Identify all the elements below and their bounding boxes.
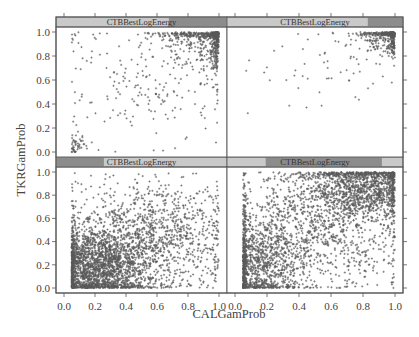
y-tick-label: 0.4	[36, 235, 50, 247]
x-axis-title: CALGamProb	[193, 307, 266, 321]
y-tick-label: 0.8	[36, 189, 50, 201]
y-tick-label: 1.0	[36, 166, 50, 178]
x-tick-label: 0.2	[88, 300, 102, 312]
strip-label: CTBBestLogEnergy	[107, 157, 177, 167]
y-tick-label: 0.0	[36, 146, 50, 158]
x-tick-label: 0.0	[57, 300, 71, 312]
strip-shingle-range	[169, 17, 227, 26]
y-tick-label: 0.2	[36, 259, 50, 271]
y-tick-label: 0.4	[36, 98, 50, 110]
y-tick-label: 0.6	[36, 212, 50, 224]
y-tick-label: 0.0	[36, 282, 50, 294]
strip-shingle-range	[56, 157, 104, 166]
panel-bottom-right: CTBBestLogEnergy	[227, 157, 403, 293]
trellis-scatter-chart: CTBBestLogEnergyCTBBestLogEnergyCTBBestL…	[0, 0, 419, 337]
y-tick-label: 0.2	[36, 122, 50, 134]
strip-shingle-range	[368, 17, 403, 26]
x-tick-label: 0.8	[356, 300, 370, 312]
panel-top-left: CTBBestLogEnergy	[56, 17, 227, 157]
y-tick-label: 0.8	[36, 50, 50, 62]
x-tick-label: 1.0	[388, 300, 402, 312]
y-axis-title: TKRGamProb	[14, 124, 28, 197]
x-tick-label: 0.6	[324, 300, 338, 312]
x-tick-label: 0.4	[292, 300, 306, 312]
y-tick-label: 0.6	[36, 74, 50, 86]
panel-bottom-left: CTBBestLogEnergy	[56, 157, 227, 293]
y-tick-label: 1.0	[36, 26, 50, 38]
panel-top-right: CTBBestLogEnergy	[227, 17, 403, 157]
strip-label: CTBBestLogEnergy	[107, 17, 177, 27]
x-tick-label: 0.4	[119, 300, 133, 312]
x-tick-label: 0.6	[150, 300, 164, 312]
panels-group: CTBBestLogEnergyCTBBestLogEnergyCTBBestL…	[56, 17, 403, 293]
strip-label: CTBBestLogEnergy	[280, 17, 350, 27]
strip-label: CTBBestLogEnergy	[280, 157, 350, 167]
